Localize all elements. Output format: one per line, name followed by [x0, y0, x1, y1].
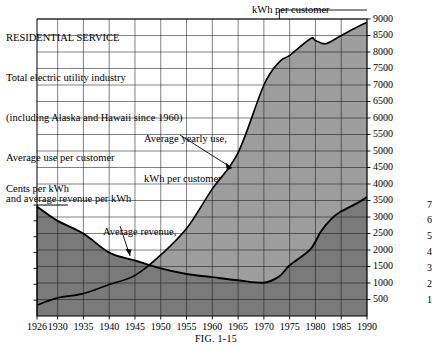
right-axis-tick-label: 9000: [373, 13, 393, 24]
right-axis-tick-label: 2500: [373, 227, 393, 238]
figure-caption: FIG. 1-15: [0, 333, 432, 344]
chart-figure: RESIDENTIAL SERVICE Total electric utili…: [0, 0, 432, 347]
right-axis-tick-label: 6000: [373, 112, 393, 123]
left-axis-tick-label: 2: [401, 278, 432, 289]
left-axis-tick-label: 5: [401, 230, 432, 241]
right-axis-tick-label: 4500: [373, 161, 393, 172]
right-axis-ticks: [367, 19, 371, 300]
right-axis-tick-label: 3000: [373, 211, 393, 222]
right-axis-tick-label: 7500: [373, 62, 393, 73]
right-axis-tick-label: 4000: [373, 178, 393, 189]
left-axis-tick-label: 1: [401, 294, 432, 305]
right-axis-tick-label: 8000: [373, 46, 393, 57]
right-axis-tick-label: 500: [373, 293, 388, 304]
right-axis-tick-label: 6500: [373, 95, 393, 106]
x-axis-ticks: [37, 316, 367, 320]
right-axis-tick-label: 1500: [373, 260, 393, 271]
right-axis-tick-label: 5000: [373, 145, 393, 156]
right-axis-tick-label: 7000: [373, 79, 393, 90]
right-axis-tick-label: 1000: [373, 277, 393, 288]
right-axis-tick-label: 8500: [373, 29, 393, 40]
right-axis-tick-label: 2000: [373, 244, 393, 255]
x-axis-tick-label: 1990: [352, 321, 382, 332]
plot-area: [0, 0, 432, 347]
left-axis-tick-label: 3: [401, 262, 432, 273]
left-axis-tick-label: 4: [401, 246, 432, 257]
right-axis-title-bracket: [279, 10, 367, 19]
right-axis-tick-label: 5500: [373, 128, 393, 139]
left-axis-tick-label: 7: [401, 199, 432, 210]
right-axis-tick-label: 3500: [373, 194, 393, 205]
left-axis-tick-label: 6: [401, 214, 432, 225]
